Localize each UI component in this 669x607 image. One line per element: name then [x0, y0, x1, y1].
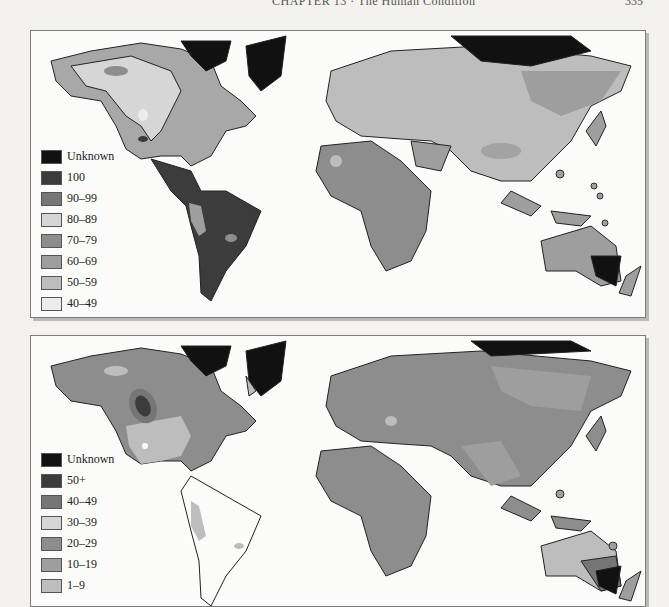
legend-swatch [41, 297, 62, 311]
legend-item: 50+ [41, 470, 114, 491]
legend-label: 40–49 [67, 494, 97, 509]
legend-swatch [41, 255, 62, 269]
legend-label: 70–79 [67, 233, 97, 248]
legend-item: 1–9 [41, 575, 114, 596]
legend-swatch [41, 234, 62, 248]
legend-swatch [41, 192, 62, 206]
legend-swatch [41, 213, 62, 227]
legend-label: 60–69 [67, 254, 97, 269]
world-map-top: Unknown 100 90–99 80–89 70–79 60–69 50–5… [30, 30, 646, 318]
legend-item: 30–39 [41, 512, 114, 533]
legend-label: 40–49 [67, 296, 97, 311]
legend-label: 10–19 [67, 557, 97, 572]
legend-item: 50–59 [41, 272, 114, 293]
legend-swatch [41, 516, 62, 530]
world-map-shapes [31, 31, 645, 317]
legend-label: 90–99 [67, 191, 97, 206]
legend-item: 20–29 [41, 533, 114, 554]
legend-item: 100 [41, 167, 114, 188]
legend-swatch [41, 276, 62, 290]
legend-swatch [41, 495, 62, 509]
legend-swatch [41, 537, 62, 551]
legend: Unknown 50+ 40–49 30–39 20–29 10–19 1–9 [41, 449, 114, 596]
legend: Unknown 100 90–99 80–89 70–79 60–69 50–5… [41, 146, 114, 314]
chapter-title: CHAPTER 13 · The Human Condition [272, 0, 475, 9]
legend-label: 20–29 [67, 536, 97, 551]
world-map-shapes [31, 336, 645, 606]
legend-swatch [41, 474, 62, 488]
legend-item: 10–19 [41, 554, 114, 575]
legend-item: 80–89 [41, 209, 114, 230]
legend-label: Unknown [67, 452, 114, 467]
legend-item: Unknown [41, 146, 114, 167]
world-map-bottom: Unknown 50+ 40–49 30–39 20–29 10–19 1–9 [30, 335, 646, 607]
legend-label: 80–89 [67, 212, 97, 227]
legend-swatch [41, 558, 62, 572]
legend-swatch [41, 150, 62, 164]
legend-label: Unknown [67, 149, 114, 164]
page-number: 335 [625, 0, 643, 9]
running-head: CHAPTER 13 · The Human Condition 335 [0, 0, 669, 6]
legend-swatch [41, 171, 62, 185]
legend-label: 1–9 [67, 578, 85, 593]
legend-swatch [41, 579, 62, 593]
legend-item: 40–49 [41, 491, 114, 512]
legend-item: 40–49 [41, 293, 114, 314]
legend-item: 70–79 [41, 230, 114, 251]
legend-item: Unknown [41, 449, 114, 470]
legend-item: 60–69 [41, 251, 114, 272]
legend-label: 30–39 [67, 515, 97, 530]
legend-item: 90–99 [41, 188, 114, 209]
legend-label: 50–59 [67, 275, 97, 290]
legend-label: 100 [67, 170, 85, 185]
legend-label: 50+ [67, 473, 86, 488]
legend-swatch [41, 453, 62, 467]
